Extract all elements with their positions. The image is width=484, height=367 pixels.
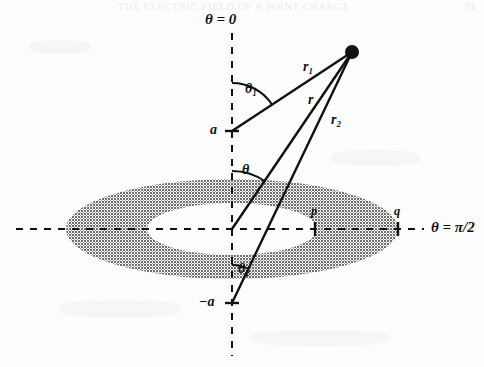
label-theta: θ [242, 163, 249, 177]
label-r2: r₂ [331, 113, 341, 127]
charged-ring [0, 0, 484, 367]
charged-ring-fill [0, 0, 484, 367]
label-theta1: θ₁ [245, 82, 257, 96]
label-r1: r₁ [303, 60, 313, 74]
field-point-dot [345, 45, 359, 59]
label-theta-pi-over-2: θ = π/2 [431, 220, 475, 235]
label-tick-p: p [311, 205, 317, 218]
label-tick-minus-a: −a [199, 295, 214, 309]
label-tick-a: a [210, 123, 217, 137]
label-theta2: θ₂ [238, 262, 250, 276]
figure-drawing [0, 0, 484, 367]
figure-container: THE ELECTRIC FIELD OF A POINT CHARGE 91 [0, 0, 484, 367]
label-r: r [308, 93, 313, 107]
label-theta-zero: θ = 0 [205, 12, 236, 27]
label-tick-q: q [394, 205, 400, 218]
